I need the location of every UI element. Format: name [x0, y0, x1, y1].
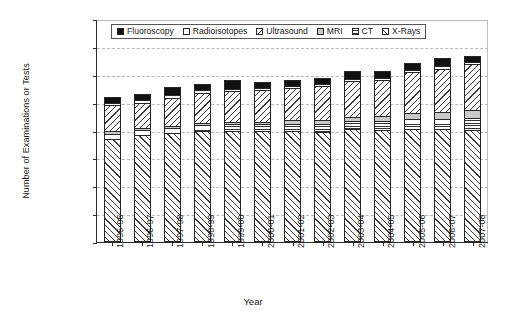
legend-label: CT [362, 27, 373, 36]
legend-label: Radioisotopes [193, 27, 247, 36]
x-tick-label: 2003-04 [356, 214, 366, 248]
x-tick-mark [413, 242, 414, 246]
bar-segment-ct[interactable] [404, 119, 421, 129]
bar-segment-ultrasound[interactable] [464, 64, 481, 110]
x-tick-mark [473, 242, 474, 246]
x-axis-title: Year [0, 296, 506, 307]
x-tick-label: 2000-01 [266, 214, 276, 248]
x-tick-label: 2007-08 [477, 214, 487, 248]
bar-segment-ultrasound[interactable] [314, 86, 331, 120]
legend-item[interactable]: CT [352, 27, 373, 36]
x-tick-mark [262, 242, 263, 246]
bar-segment-ultrasound[interactable] [434, 69, 451, 112]
bar-segment-ct[interactable] [314, 124, 331, 132]
bar-segment-ultrasound[interactable] [284, 88, 301, 120]
bar-segment-ct[interactable] [284, 124, 301, 131]
x-tick-label: 1996-97 [145, 214, 155, 248]
x-tick-mark [112, 242, 113, 246]
bar-column[interactable] [97, 20, 127, 242]
stacked-bar-chart: Number of Examinations or Tests 05 000 0… [0, 0, 506, 316]
x-tick-label: 1999-00 [236, 214, 246, 248]
y-tick-mark [93, 243, 97, 244]
x-tick-label: 2005-06 [417, 214, 427, 248]
bar-segment-fluoroscopy[interactable] [344, 71, 361, 78]
bar-column[interactable] [338, 20, 368, 242]
solid-gray-swatch [317, 28, 324, 35]
legend-label: X-Rays [392, 27, 420, 36]
y-axis-title: Number of Examinations or Tests [21, 41, 31, 221]
bar-column[interactable] [428, 20, 458, 242]
bar-segment-ultrasound[interactable] [224, 91, 241, 122]
bar-segment-ultrasound[interactable] [254, 90, 271, 121]
bar-column[interactable] [217, 20, 247, 242]
bar-segment-ultrasound[interactable] [404, 72, 421, 113]
bar-column[interactable] [187, 20, 217, 242]
bar-segment-ultrasound[interactable] [104, 105, 121, 131]
bar-segment-ct[interactable] [344, 121, 361, 129]
bar-segment-ultrasound[interactable] [134, 103, 151, 128]
bar-segment-fluoroscopy[interactable] [224, 80, 241, 89]
chart-legend: FluoroscopyRadioisotopesUltrasoundMRICTX… [111, 24, 426, 39]
x-tick-mark [202, 242, 203, 246]
bar-column[interactable] [127, 20, 157, 242]
bar-segment-mri[interactable] [434, 112, 451, 119]
bar-segment-fluoroscopy[interactable] [434, 58, 451, 67]
legend-item[interactable]: MRI [317, 27, 343, 36]
x-tick-mark [172, 242, 173, 246]
x-tick-mark [353, 242, 354, 246]
x-tick-mark [443, 242, 444, 246]
bar-segment-ct[interactable] [374, 121, 391, 130]
bar-segment-ct[interactable] [464, 118, 481, 130]
legend-item[interactable]: Radioisotopes [183, 27, 247, 36]
x-tick-label: 2004-05 [386, 214, 396, 248]
bar-column[interactable] [277, 20, 307, 242]
x-tick-mark [383, 242, 384, 246]
bar-column[interactable] [157, 20, 187, 242]
x-tick-mark [232, 242, 233, 246]
solid-black-swatch [117, 28, 124, 35]
legend-item[interactable]: Ultrasound [256, 27, 308, 36]
bar-segment-ct[interactable] [434, 119, 451, 130]
bar-group [97, 20, 488, 242]
diagonal-forward-hatch-swatch [382, 28, 389, 35]
legend-item[interactable]: Fluoroscopy [117, 27, 174, 36]
x-tick-label: 2002-03 [326, 214, 336, 248]
white-empty-swatch [183, 28, 190, 35]
horizontal-lines-swatch [352, 28, 359, 35]
bar-segment-ultrasound[interactable] [164, 98, 181, 126]
diagonal-back-hatch-swatch [256, 28, 263, 35]
x-tick-label: 2001-02 [296, 214, 306, 248]
x-tick-label: 2006-07 [447, 214, 457, 248]
bar-segment-ultrasound[interactable] [374, 80, 391, 116]
legend-label: MRI [327, 27, 343, 36]
bar-segment-ultrasound[interactable] [344, 81, 361, 117]
x-tick-mark [142, 242, 143, 246]
bar-column[interactable] [398, 20, 428, 242]
x-tick-mark [293, 242, 294, 246]
bar-column[interactable] [368, 20, 398, 242]
x-tick-mark [323, 242, 324, 246]
bar-segment-fluoroscopy[interactable] [404, 63, 421, 70]
plot-area: 05 000 00010 000 00015 000 00020 000 000… [96, 20, 488, 243]
bar-column[interactable] [247, 20, 277, 242]
bar-segment-ultrasound[interactable] [194, 93, 211, 123]
bar-segment-fluoroscopy[interactable] [164, 87, 181, 96]
x-tick-label: 1997-98 [175, 214, 185, 248]
bar-column[interactable] [458, 20, 488, 242]
x-tick-label: 1995-96 [115, 214, 125, 248]
x-tick-label: 1998-99 [206, 214, 216, 248]
legend-label: Fluoroscopy [127, 27, 174, 36]
legend-label: Ultrasound [266, 27, 308, 36]
legend-item[interactable]: X-Rays [382, 27, 420, 36]
bar-segment-mri[interactable] [464, 110, 481, 118]
bar-column[interactable] [308, 20, 338, 242]
